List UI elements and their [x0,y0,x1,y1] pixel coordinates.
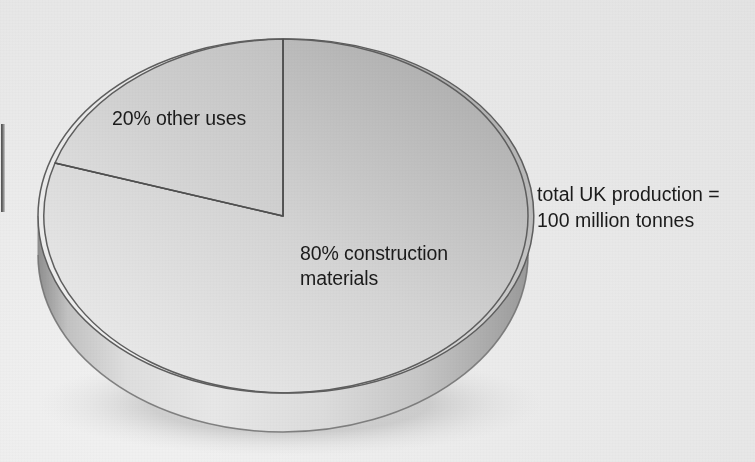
total-production-annotation: total UK production = 100 million tonnes [537,181,720,233]
chart-page: 20% other uses 80% construction material… [0,0,755,462]
pie-label-other-uses: 20% other uses [112,106,246,131]
pie-label-construction-materials: 80% construction materials [300,241,448,291]
